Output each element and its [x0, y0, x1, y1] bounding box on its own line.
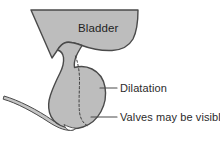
label-dilatation: Dilatation: [120, 82, 167, 94]
label-valves: Valves may be visible: [120, 111, 220, 123]
bladder-shape: [31, 10, 138, 58]
anatomical-diagram: Bladder Dilatation Valves may be visible: [0, 0, 220, 142]
dilatation-shape: [49, 42, 106, 128]
label-bladder: Bladder: [78, 22, 118, 34]
anatomy-illustration: Bladder Dilatation Valves may be visible: [0, 0, 220, 142]
